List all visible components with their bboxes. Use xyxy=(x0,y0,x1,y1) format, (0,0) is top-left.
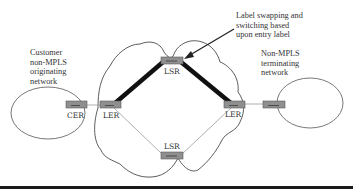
annotation-arrow-head xyxy=(184,51,194,59)
label-cer: CER xyxy=(67,111,84,120)
terminating-network-label: Non-MPLS terminating network xyxy=(261,49,300,78)
label-ler-right: LER xyxy=(225,110,241,119)
router-lsr-bottom[interactable] xyxy=(161,152,183,159)
router-ler-left[interactable] xyxy=(100,101,121,108)
router-cer[interactable] xyxy=(66,101,87,108)
lsp-path-right-segment xyxy=(181,62,232,104)
annotation-arrow-line xyxy=(190,29,234,55)
label-lsr-top: LSR xyxy=(164,67,180,76)
originating-network-label: Customer non-MPLS originating network xyxy=(30,48,67,86)
router-terminating-network[interactable] xyxy=(263,101,285,108)
label-swap-annotation: Label swapping and switching based upon … xyxy=(236,11,303,40)
label-ler-left: LER xyxy=(103,111,119,120)
router-ler-right[interactable] xyxy=(224,101,245,108)
link-ler-left-lsr-bottom xyxy=(113,107,163,155)
router-lsr-top[interactable] xyxy=(161,57,183,64)
terminating-network-ellipse xyxy=(277,78,343,128)
lsp-path-left-segment xyxy=(114,62,163,104)
label-lsr-bottom: LSR xyxy=(164,142,180,151)
bottom-rule xyxy=(0,186,353,189)
